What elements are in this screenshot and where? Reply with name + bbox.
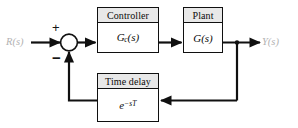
transfer-function-time-delay: e−sT bbox=[119, 99, 136, 111]
block-controller-header: Controller bbox=[98, 8, 158, 23]
block-time-delay-body: e−sT bbox=[98, 89, 158, 121]
input-signal-label: R(s) bbox=[6, 36, 24, 47]
block-plant-body: G(s) bbox=[184, 23, 222, 52]
tf-plant-suffix: (s) bbox=[201, 32, 213, 44]
block-controller[interactable]: Controller Gc(s) bbox=[97, 7, 159, 53]
summing-junction-plus-sign: + bbox=[52, 21, 60, 34]
tf-controller-suffix: (s) bbox=[128, 31, 140, 43]
block-time-delay[interactable]: Time delay e−sT bbox=[97, 73, 159, 122]
block-diagram-canvas: + − R(s) Y(s) Controller Gc(s) Plant G(s… bbox=[0, 0, 298, 128]
transfer-function-controller: Gc(s) bbox=[117, 31, 139, 45]
tf-delay-exponent: −sT bbox=[124, 99, 137, 108]
block-controller-body: Gc(s) bbox=[98, 23, 158, 52]
block-plant[interactable]: Plant G(s) bbox=[183, 7, 223, 53]
summing-junction-minus-sign: − bbox=[52, 50, 61, 65]
summing-junction-circle bbox=[61, 34, 78, 51]
block-time-delay-header: Time delay bbox=[98, 74, 158, 89]
transfer-function-plant: G(s) bbox=[193, 32, 213, 44]
wire-timedelay-return bbox=[69, 57, 97, 101]
tf-plant-base: G bbox=[193, 32, 201, 44]
feedback-tap-node bbox=[235, 40, 239, 44]
block-plant-header: Plant bbox=[184, 8, 222, 23]
output-signal-label: Y(s) bbox=[262, 36, 279, 47]
